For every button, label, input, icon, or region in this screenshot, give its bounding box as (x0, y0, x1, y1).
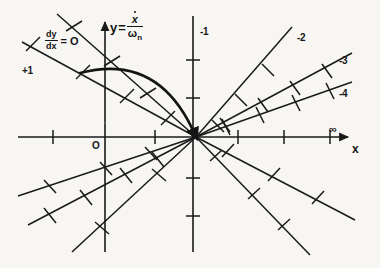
stray-dot (104, 122, 106, 124)
y-axis-denominator: ωn (127, 28, 143, 42)
dydx-fraction: dy dx (45, 30, 58, 51)
isocline-label-minus2: -2 (297, 33, 305, 43)
axis-group (18, 16, 348, 252)
isocline-line-lower-right-shallow (196, 137, 355, 220)
y-axis-label-lead: y (110, 20, 117, 35)
origin-label: O (92, 141, 100, 151)
isocline-label-minus3: -3 (339, 56, 347, 66)
isocline-label-minus4: -4 (339, 89, 347, 99)
infinity-label: ∞ (329, 124, 337, 135)
omega-subscript: n (137, 33, 142, 42)
dydx-equals-zero: = O (61, 35, 79, 47)
isocline-line-lower-left-steep (72, 137, 196, 252)
y-axis-numerator: x (131, 14, 139, 25)
figure-canvas: y = x ωn dy dx = O +1 -1 -2 -3 -4 O ∞ x (0, 0, 380, 268)
isocline-line-plus1 (22, 37, 196, 137)
dydx-denominator: dx (45, 42, 58, 51)
y-axis-label-equals: = (118, 20, 126, 35)
x-axis-label: x (352, 143, 359, 155)
isocline-line-lower-right-steep (196, 137, 310, 255)
omega-glyph: ω (128, 27, 137, 39)
y-axis-label-fraction: x ωn (127, 14, 143, 42)
isocline-label-plus1: +1 (22, 66, 33, 76)
isocline-line-lower-left-medium (28, 137, 196, 225)
isocline-line-lower-left-shallow (18, 137, 196, 196)
slope-zero-annotation: dy dx = O (45, 30, 79, 51)
dydx-numerator: dy (45, 30, 58, 39)
y-axis-label: y = x ωn (110, 14, 143, 42)
isocline-label-minus1: -1 (200, 27, 208, 37)
